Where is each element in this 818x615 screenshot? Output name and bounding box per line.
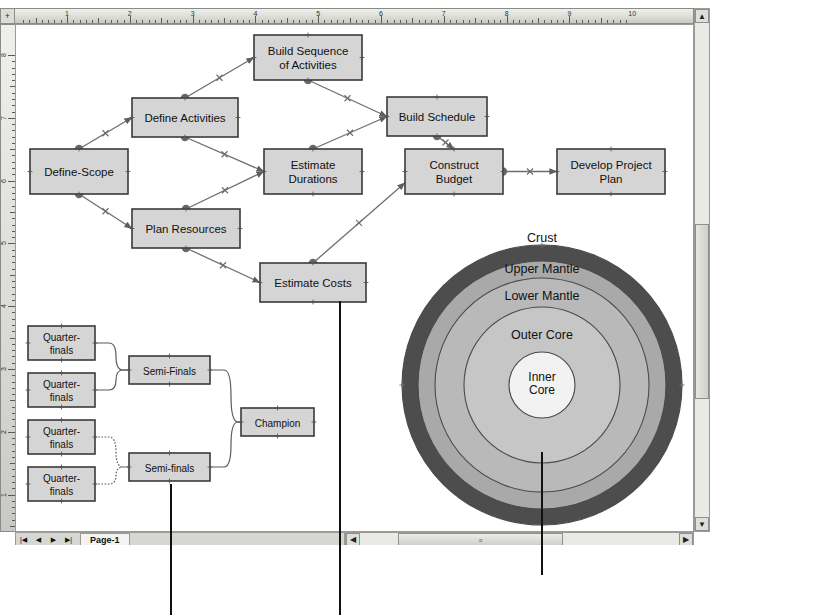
- ruler-tick: [456, 20, 457, 23]
- ruler-tick: [400, 20, 401, 23]
- node-rect[interactable]: [264, 149, 362, 194]
- ruler-tick: [488, 20, 489, 23]
- vertical-scroll-thumb[interactable]: [695, 224, 709, 399]
- flowchart-node-define-scope[interactable]: Define-Scope: [28, 147, 131, 197]
- ruler-tick: [557, 20, 558, 23]
- connector-define-activities-to-build-sequence[interactable]: [181, 58, 254, 103]
- connector-midpoint[interactable]: [222, 151, 228, 157]
- ruler-tick: [92, 20, 93, 23]
- ruler-tick: [54, 20, 55, 23]
- scroll-up-button[interactable]: ▲: [695, 9, 709, 23]
- drawing-canvas[interactable]: Define-ScopeDefine ActivitiesBuild Seque…: [15, 24, 694, 532]
- flowchart-node-estimate-durations[interactable]: EstimateDurations: [262, 147, 365, 197]
- flowchart-node-plan-resources[interactable]: Plan Resources: [130, 207, 243, 251]
- ruler-tick: [331, 20, 332, 23]
- ruler-tick: [124, 20, 125, 23]
- connector-estimate-costs-to-construct-budget[interactable]: [309, 183, 405, 267]
- connector-midpoint[interactable]: [347, 130, 353, 136]
- bracket-node-qf2[interactable]: Quarter-finals: [26, 371, 98, 410]
- ruler-tick: [218, 20, 219, 23]
- ruler-tick: [626, 20, 627, 23]
- horizontal-ruler[interactable]: 12345678910: [14, 8, 694, 24]
- ruler-tick: [180, 20, 181, 23]
- ruler-corner-origin[interactable]: +: [0, 8, 15, 24]
- connector-define-scope-to-plan-resources[interactable]: [75, 190, 132, 229]
- connector-midpoint[interactable]: [220, 262, 226, 268]
- ruler-tick: [412, 18, 413, 23]
- bracket-node-qf4[interactable]: Quarter-finals: [26, 465, 98, 504]
- connector-midpoint[interactable]: [356, 220, 362, 226]
- bracket-connector[interactable]: [210, 422, 241, 467]
- node-rect[interactable]: [405, 149, 503, 194]
- flowchart-node-define-activities[interactable]: Define Activities: [130, 96, 241, 140]
- ruler-tick: [293, 20, 294, 23]
- bracket-connector[interactable]: [95, 343, 129, 370]
- node-rect[interactable]: [254, 35, 362, 80]
- leader-onion: [541, 452, 543, 575]
- scroll-down-button[interactable]: ▼: [695, 517, 709, 531]
- connector-midpoint[interactable]: [103, 130, 109, 136]
- ruler-tick: [136, 20, 137, 23]
- ruler-tick: [42, 20, 43, 23]
- bracket-node-sf1[interactable]: Semi-Finals: [127, 354, 213, 387]
- ruler-tick: [582, 20, 583, 23]
- ruler-tick: [431, 20, 432, 23]
- connector-midpoint[interactable]: [217, 75, 223, 81]
- leader-bracket: [170, 484, 172, 615]
- ruler-tick: [538, 18, 539, 23]
- connector-midpoint[interactable]: [222, 187, 228, 193]
- ruler-label: 8: [0, 53, 7, 57]
- ruler-tick: [29, 20, 30, 23]
- bracket-node-qf1[interactable]: Quarter-finals: [26, 324, 98, 363]
- ruler-tick: [73, 20, 74, 23]
- flowchart-node-build-sequence[interactable]: Build Sequenceof Activities: [252, 33, 365, 83]
- connector-midpoint[interactable]: [103, 208, 109, 214]
- bracket-node-champ[interactable]: Champion: [239, 406, 317, 439]
- connector-build-sequence-to-build-schedule[interactable]: [304, 76, 387, 117]
- ruler-tick: [343, 20, 344, 23]
- flowchart-node-estimate-costs[interactable]: Estimate Costs: [258, 261, 369, 305]
- vertical-ruler[interactable]: 87654321: [0, 24, 16, 532]
- ruler-tick: [350, 18, 351, 23]
- connector-define-scope-to-define-activities[interactable]: [75, 118, 132, 154]
- node-label: ConstructBudget: [429, 159, 479, 184]
- connector-construct-budget-to-develop-project-plan[interactable]: [499, 167, 557, 175]
- flowchart-node-develop-project-plan[interactable]: Develop ProjectPlan: [555, 147, 668, 197]
- bracket-connector[interactable]: [210, 370, 241, 422]
- ruler-tick: [224, 18, 225, 23]
- node-label: Define-Scope: [44, 166, 114, 178]
- ruler-tick: [161, 18, 162, 23]
- connector-plan-resources-to-estimate-costs[interactable]: [182, 244, 260, 283]
- connector-estimate-durations-to-build-schedule[interactable]: [309, 117, 387, 154]
- connector-plan-resources-to-estimate-durations[interactable]: [182, 172, 264, 214]
- vertical-scrollbar[interactable]: ▲ ▼: [694, 8, 710, 532]
- bracket-connector[interactable]: [95, 370, 129, 390]
- node-rect[interactable]: [557, 149, 665, 194]
- flowchart-node-build-schedule[interactable]: Build Schedule: [385, 95, 490, 139]
- ruler-label: 5: [0, 241, 7, 245]
- bracket-nodes: Quarter-finalsQuarter-finalsQuarter-fina…: [26, 324, 317, 504]
- ruler-tick: [243, 20, 244, 23]
- ruler-tick: [8, 306, 15, 307]
- ruler-tick: [438, 20, 439, 23]
- ruler-tick: [425, 20, 426, 23]
- bracket-connector[interactable]: [95, 467, 129, 484]
- onion-label-outer-core: Outer Core: [511, 328, 573, 342]
- connector-midpoint[interactable]: [443, 140, 449, 146]
- ruler-tick: [337, 20, 338, 23]
- ruler-tick: [444, 16, 445, 23]
- ruler-tick: [8, 118, 15, 119]
- ruler-tick: [563, 20, 564, 23]
- ruler-tick: [387, 20, 388, 23]
- ruler-tick: [551, 20, 552, 23]
- bracket-node-qf3[interactable]: Quarter-finals: [26, 418, 98, 457]
- bracket-node-sf2[interactable]: Semi-finals: [127, 451, 213, 484]
- ruler-tick: [525, 20, 526, 23]
- flowchart-node-construct-budget[interactable]: ConstructBudget: [403, 147, 506, 197]
- ruler-tick: [513, 20, 514, 23]
- connector-midpoint[interactable]: [345, 95, 351, 101]
- ruler-tick: [117, 20, 118, 23]
- ruler-tick: [519, 20, 520, 23]
- bracket-connector[interactable]: [95, 437, 129, 467]
- connector-define-activities-to-estimate-durations[interactable]: [181, 133, 264, 172]
